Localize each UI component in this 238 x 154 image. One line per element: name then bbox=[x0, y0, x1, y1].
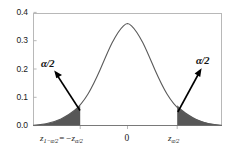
x-right-variable: z bbox=[168, 133, 172, 143]
y-tick-label-2: 0.2 bbox=[4, 65, 28, 74]
x-tick-label-center: 0 bbox=[125, 133, 130, 143]
x-left-negated-variable: −z bbox=[65, 133, 75, 143]
x-tick-label-right: zα/2 bbox=[168, 133, 179, 144]
x-left-negated-subscript: α/2 bbox=[75, 137, 83, 144]
normal-distribution-figure: 0.0 0.1 0.2 0.3 0.4 α/2 α/2 z1−α/2=−zα/2… bbox=[0, 0, 238, 154]
left-alpha-label: α/2 bbox=[41, 58, 54, 69]
y-tick-label-0: 0.0 bbox=[4, 121, 28, 130]
y-tick-label-1: 0.1 bbox=[4, 93, 28, 102]
x-tick-label-left: z1−α/2=−zα/2 bbox=[40, 133, 83, 144]
plot-canvas bbox=[0, 0, 238, 154]
y-tick-label-3: 0.3 bbox=[4, 36, 28, 45]
x-right-subscript: α/2 bbox=[172, 137, 180, 144]
right-alpha-label: α/2 bbox=[196, 55, 209, 66]
plot-frame bbox=[34, 14, 222, 126]
x-axis-ticks bbox=[80, 126, 177, 129]
x-left-variable: z bbox=[40, 133, 44, 143]
x-left-subscript: 1−α/2 bbox=[44, 137, 59, 144]
y-tick-label-4: 0.4 bbox=[4, 8, 28, 17]
